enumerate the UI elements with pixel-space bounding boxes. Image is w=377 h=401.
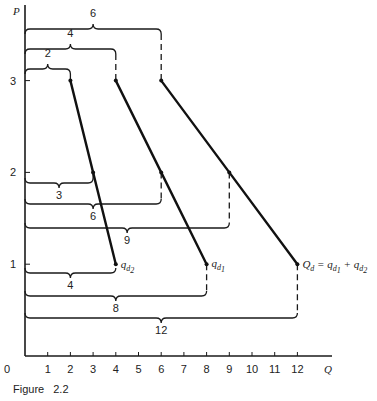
brace-label: 2 [45, 47, 51, 59]
quantity-brace [25, 24, 161, 34]
x-tick-label: 7 [181, 363, 187, 375]
data-point [114, 79, 118, 83]
brace-label: 6 [90, 210, 96, 222]
label-q-d2: qd2 [121, 258, 135, 275]
brace-label: 8 [113, 302, 119, 314]
x-tick-label: 10 [246, 363, 258, 375]
label-market-demand: Qd = qd1 + qd2 [302, 258, 367, 275]
y-tick-label: 1 [10, 258, 16, 270]
axes: PQ0123456789101112123 [4, 5, 332, 375]
data-point [295, 262, 299, 266]
data-point [205, 262, 209, 266]
data-point [114, 262, 118, 266]
y-tick-label: 3 [10, 75, 16, 87]
data-point [159, 79, 163, 83]
x-tick-label: 0 [4, 363, 10, 375]
quantity-brace [25, 268, 116, 278]
quantity-brace [25, 291, 207, 301]
demand-curves [68, 79, 299, 267]
x-axis-label: Q [324, 363, 332, 375]
x-tick-label: 6 [158, 363, 164, 375]
y-axis-label: P [12, 5, 20, 17]
quantity-brace [25, 178, 93, 188]
brace-label: 3 [56, 189, 62, 201]
brace-label: 4 [67, 279, 73, 291]
quantity-brace [25, 64, 70, 74]
quantity-brace [25, 199, 161, 209]
brace-label: 4 [67, 27, 73, 39]
data-point [91, 170, 95, 174]
brace-label: 6 [90, 7, 96, 19]
x-tick-label: 8 [204, 363, 210, 375]
x-tick-label: 4 [113, 363, 119, 375]
data-point [159, 170, 163, 174]
x-tick-label: 12 [291, 363, 303, 375]
x-tick-label: 9 [226, 363, 232, 375]
data-point [227, 170, 231, 174]
data-point [68, 79, 72, 83]
label-q-d1: qd1 [212, 257, 226, 274]
x-tick-label: 2 [67, 363, 73, 375]
quantity-brace [25, 313, 297, 323]
brace-label: 9 [124, 234, 130, 246]
x-tick-label: 11 [269, 363, 280, 375]
x-tick-label: 5 [135, 363, 141, 375]
y-tick-label: 2 [10, 166, 16, 178]
figure-caption: Figure 2.2 [13, 383, 69, 395]
quantity-brace [25, 44, 116, 54]
brace-label: 12 [155, 324, 167, 336]
x-tick-label: 1 [45, 363, 51, 375]
curve-labels: qd2qd1Qd = qd1 + qd2 [121, 257, 367, 275]
x-tick-label: 3 [90, 363, 96, 375]
demand-aggregation-chart: 6423694812 PQ0123456789101112123 qd2qd1Q… [0, 0, 377, 401]
quantity-brace [25, 223, 229, 233]
